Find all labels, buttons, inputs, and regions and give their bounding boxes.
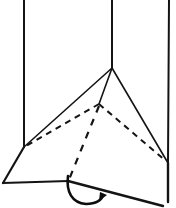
face-group — [3, 68, 168, 183]
geometry-line-drawing — [0, 0, 176, 208]
face-top-slab — [3, 68, 168, 183]
rotation-arrow-head — [99, 192, 107, 201]
wall-edge-right-line — [168, 0, 169, 163]
figure-canvas: Folded triangular prism with rotation ar… — [0, 0, 176, 208]
